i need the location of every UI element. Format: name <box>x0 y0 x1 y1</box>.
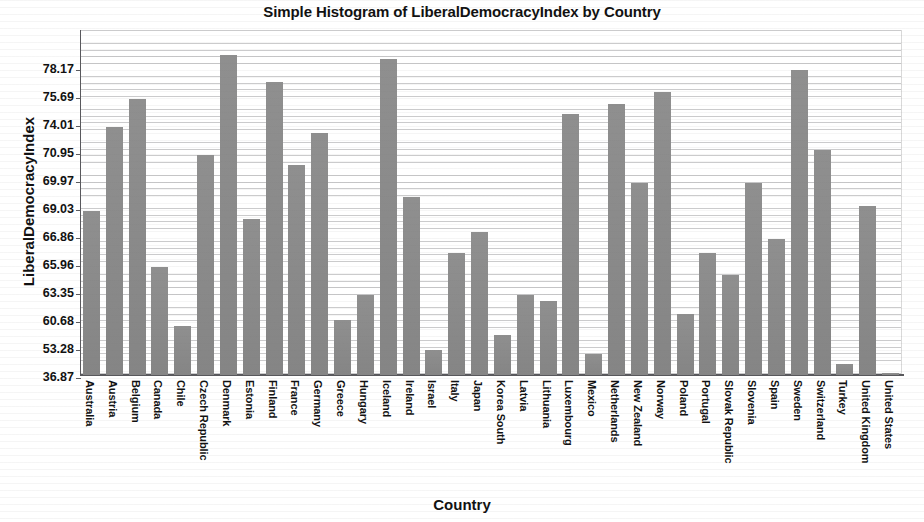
x-axis-tick-label: Norway <box>655 380 667 419</box>
x-axis-tick-label: Israel <box>426 380 438 408</box>
x-axis-tick-label: Ireland <box>404 380 416 415</box>
bar <box>129 99 146 375</box>
bar <box>562 114 579 375</box>
x-axis-tick-label: Hungary <box>358 380 370 424</box>
bar-fill <box>151 267 168 375</box>
bar-fill <box>791 70 808 375</box>
bar <box>288 165 305 375</box>
bar-fill <box>677 314 694 375</box>
x-axis-tick-label: United States <box>883 380 895 449</box>
bar <box>403 197 420 375</box>
bar <box>859 206 876 375</box>
bar <box>585 354 602 375</box>
bar-fill <box>197 155 214 375</box>
x-axis-tick-label: Slovenia <box>746 380 758 424</box>
bar <box>791 70 808 375</box>
x-axis-tick-label: Australia <box>84 380 96 426</box>
bar-fill <box>83 211 100 375</box>
x-axis-tick-label: Slovak Republic <box>723 380 735 463</box>
x-axis-tick-label: United Kingdom <box>860 380 872 464</box>
bar <box>836 364 853 375</box>
bar-fill <box>631 183 648 375</box>
x-axis-tick-label: Portugal <box>700 380 712 424</box>
x-axis-tick-label: Netherlands <box>609 380 621 442</box>
bar <box>380 59 397 375</box>
bar-fill <box>540 301 557 375</box>
bar-fill <box>608 104 625 375</box>
bar-fill <box>403 197 420 375</box>
bar <box>151 267 168 375</box>
y-axis-tick-label: 74.01 <box>0 118 74 132</box>
bar-fill <box>517 295 534 375</box>
bar-fill <box>859 206 876 375</box>
bar <box>494 335 511 375</box>
y-axis-tick-label: 65.96 <box>0 258 74 272</box>
bar <box>174 326 191 375</box>
bar <box>243 219 260 375</box>
bar-fill <box>562 114 579 375</box>
bar <box>745 183 762 375</box>
bar <box>654 92 671 375</box>
chart-figure: Simple Histogram of LiberalDemocracyInde… <box>0 0 924 522</box>
bar-fill <box>220 55 237 375</box>
bar <box>882 373 899 375</box>
bar-fill <box>585 354 602 375</box>
y-axis-tick-label: 36.87 <box>0 370 74 384</box>
x-axis-tick-label: Denmark <box>221 380 233 426</box>
bar <box>197 155 214 375</box>
bar <box>677 314 694 375</box>
x-axis-tick-label: Austria <box>107 380 119 417</box>
bar <box>699 253 716 375</box>
bar-fill <box>425 350 442 375</box>
x-axis-tick-label: Korea South <box>495 380 507 444</box>
x-axis-tick-label: Belgium <box>130 380 142 423</box>
bar-fill <box>699 253 716 375</box>
x-axis-tick-label: Canada <box>152 380 164 419</box>
bar-fill <box>311 133 328 375</box>
y-axis-tick-label: 60.68 <box>0 314 74 328</box>
x-axis-title: Country <box>0 496 924 513</box>
bar-fill <box>471 232 488 375</box>
bar <box>266 82 283 375</box>
bar <box>311 133 328 375</box>
bar-fill <box>288 165 305 375</box>
x-axis-tick-label: New Zealand <box>632 380 644 446</box>
bar <box>517 295 534 375</box>
x-axis-tick-label: Italy <box>449 380 461 402</box>
bar-fill <box>106 127 123 375</box>
bar <box>83 211 100 375</box>
x-axis-tick-label: Latvia <box>518 380 530 411</box>
bar-fill <box>334 320 351 375</box>
chart-title: Simple Histogram of LiberalDemocracyInde… <box>0 3 924 20</box>
x-axis-tick-label: Lithuania <box>541 380 553 428</box>
y-axis-tick-label: 75.69 <box>0 90 74 104</box>
bar <box>425 350 442 375</box>
x-axis-tick-label: Poland <box>678 380 690 416</box>
bar-fill <box>722 275 739 375</box>
x-axis-tick-label: Germany <box>312 380 324 427</box>
y-axis-tick-label: 69.03 <box>0 202 74 216</box>
bar-fill <box>745 183 762 375</box>
bar <box>448 253 465 375</box>
bar <box>608 104 625 375</box>
x-axis-tick-label: Greece <box>335 380 347 417</box>
bar <box>334 320 351 375</box>
x-axis-tick-label: Turkey <box>837 380 849 415</box>
bar <box>814 150 831 375</box>
bar <box>220 55 237 375</box>
bar-fill <box>494 335 511 375</box>
y-axis-tick-label: 78.17 <box>0 62 74 76</box>
bar-fill <box>882 373 899 375</box>
y-axis-tick-label: 69.97 <box>0 174 74 188</box>
x-axis-tick-label: Sweden <box>792 380 804 421</box>
y-axis-tick-label: 63.35 <box>0 286 74 300</box>
x-axis-tick-label: Mexico <box>586 380 598 417</box>
x-axis-tick-label: Czech Republic <box>198 380 210 461</box>
x-axis-tick-label: France <box>289 380 301 415</box>
bar <box>722 275 739 375</box>
bar <box>540 301 557 375</box>
bar-fill <box>814 150 831 375</box>
y-axis-tick-label: 66.86 <box>0 230 74 244</box>
bar-fill <box>266 82 283 375</box>
x-axis-tick-label: Estonia <box>244 380 256 419</box>
